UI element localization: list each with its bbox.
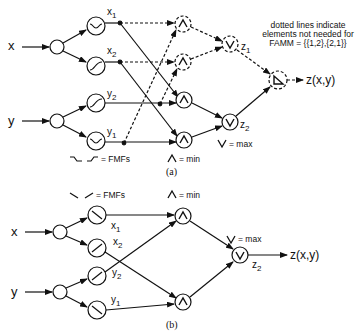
min-node-2-b xyxy=(175,294,191,310)
fmf-legend-b: = FMFs xyxy=(96,190,125,200)
max-legend-a: = max xyxy=(229,139,253,149)
max-node-dashed-z1 xyxy=(222,36,238,52)
x-input-label: x xyxy=(8,38,15,53)
max-icon-a xyxy=(218,140,226,147)
min-node-1-b xyxy=(175,208,191,224)
caption-a: (a) xyxy=(166,166,177,178)
output-label-a: z(x,y) xyxy=(306,73,335,87)
svg-text:z1: z1 xyxy=(241,41,251,55)
min-node-2 xyxy=(176,132,192,148)
max-node-z2-b xyxy=(232,247,248,263)
svg-text:z2: z2 xyxy=(252,259,262,273)
fmf-y1-node xyxy=(87,132,105,150)
fmf-legend-icon-b xyxy=(70,193,93,198)
svg-text:y2: y2 xyxy=(112,267,122,281)
min-node-1 xyxy=(176,92,192,108)
output-label-b: z(x,y) xyxy=(290,248,319,262)
min-node-dashed-1 xyxy=(175,16,191,32)
caption-b: (b) xyxy=(166,319,178,331)
svg-text:z2: z2 xyxy=(240,119,250,133)
min-legend-b: = min xyxy=(179,190,200,200)
x-input-node-b xyxy=(53,225,67,239)
svg-text:y1: y1 xyxy=(107,126,117,140)
svg-text:y1: y1 xyxy=(111,294,121,308)
fmf-x1-node xyxy=(87,17,105,35)
diagram-b xyxy=(25,206,287,319)
x-input-node xyxy=(50,40,64,54)
y-input-node xyxy=(50,114,64,128)
min-legend-a: = min xyxy=(179,154,200,164)
min-icon-a xyxy=(168,155,176,162)
diagram-a xyxy=(22,16,303,150)
y-input-label: y xyxy=(8,113,15,128)
x-input-label-b: x xyxy=(11,224,18,239)
svg-text:x1: x1 xyxy=(111,220,121,234)
y-input-node-b xyxy=(53,285,67,299)
fuzzy-network-diagram: x y x1 x2 y2 y1 z1 z2 z(x,y) dotted line… xyxy=(0,0,359,335)
min-icon-b xyxy=(168,191,176,198)
y-input-label-b: y xyxy=(11,284,18,299)
min-node-dashed-2 xyxy=(175,54,191,70)
svg-text:x2: x2 xyxy=(107,45,117,59)
note-line-3: FAMM = {{1,2},{2,1}} xyxy=(269,38,346,48)
max-legend-b: = max xyxy=(238,234,262,244)
fmf-legend-a: = FMFs xyxy=(101,154,130,164)
svg-text:y2: y2 xyxy=(107,88,117,102)
max-node-z2 xyxy=(222,114,238,130)
fmf-legend-icon-a xyxy=(70,157,98,161)
max-icon-b xyxy=(227,236,235,243)
svg-text:x1: x1 xyxy=(107,6,117,20)
svg-text:x2: x2 xyxy=(113,236,123,250)
